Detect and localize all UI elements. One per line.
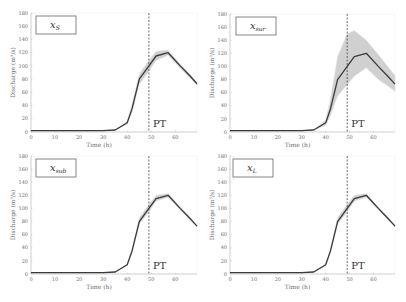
y-tick-label: 120	[18, 192, 28, 198]
x-tick-label: 10	[52, 134, 58, 140]
x-tick-label: 30	[299, 134, 305, 140]
x-tick-label: 20	[76, 134, 82, 140]
y-tick-label: 180	[217, 11, 227, 17]
x-tick-label: 40	[124, 134, 130, 140]
x-tick-label: 10	[251, 276, 257, 282]
y-tick-label: 0	[25, 271, 28, 277]
x-tick-label: 10	[251, 134, 257, 140]
y-tick-label: 140	[217, 37, 227, 43]
x-tick-label: 30	[100, 276, 106, 282]
y-tick-label: 20	[22, 258, 28, 264]
y-tick-label: 100	[217, 205, 227, 211]
y-tick-label: 140	[18, 179, 28, 185]
x-tick-label: 0	[29, 276, 32, 282]
y-tick-label: 40	[22, 244, 28, 250]
y-tick-label: 80	[22, 218, 28, 224]
y-tick-label: 100	[18, 63, 28, 69]
chart-panel-top-left: 0102030405060020406080100120140160180Tim…	[9, 10, 197, 148]
y-tick-label: 0	[224, 271, 227, 277]
x-tick-label: 10	[52, 276, 58, 282]
y-tick-label: 40	[221, 102, 227, 108]
y-tick-label: 60	[221, 89, 227, 95]
x-axis-label: Time (h)	[285, 283, 311, 290]
y-tick-label: 60	[22, 231, 28, 237]
y-axis-label: Discharge (m³/s)	[208, 48, 216, 99]
x-tick-label: 50	[346, 276, 352, 282]
y-tick-label: 160	[18, 23, 28, 29]
y-tick-label: 80	[22, 76, 28, 82]
y-tick-label: 100	[18, 205, 28, 211]
x-tick-label: 0	[228, 134, 231, 140]
x-tick-label: 0	[29, 134, 32, 140]
y-tick-label: 120	[217, 192, 227, 198]
x-tick-label: 60	[370, 276, 376, 282]
x-tick-label: 60	[172, 134, 178, 140]
x-axis-label: Time (h)	[86, 141, 112, 148]
y-tick-label: 140	[18, 36, 28, 42]
x-tick-label: 30	[299, 276, 305, 282]
y-tick-label: 40	[22, 102, 28, 108]
y-tick-label: 0	[25, 129, 28, 135]
y-tick-label: 60	[22, 89, 28, 95]
parameter-subscript: L	[252, 167, 257, 174]
pt-label: PT	[351, 118, 365, 129]
parameter-subscript: S	[56, 24, 60, 31]
x-tick-label: 20	[76, 276, 82, 282]
y-tick-label: 120	[18, 49, 28, 55]
x-tick-label: 40	[322, 276, 328, 282]
chart-grid: 0102030405060020406080100120140160180Tim…	[0, 0, 406, 302]
y-axis-label: Discharge (m³/s)	[208, 190, 216, 241]
y-tick-label: 60	[221, 231, 227, 237]
y-tick-label: 180	[217, 153, 227, 159]
x-tick-label: 50	[148, 134, 154, 140]
uncertainty-band	[230, 30, 395, 130]
figure: 0102030405060020406080100120140160180Tim…	[0, 0, 406, 302]
y-tick-label: 160	[18, 166, 28, 172]
pt-label: PT	[351, 260, 365, 271]
y-tick-label: 40	[221, 244, 227, 250]
y-tick-label: 180	[18, 153, 28, 159]
x-tick-label: 40	[124, 276, 130, 282]
x-tick-label: 40	[322, 134, 328, 140]
x-tick-label: 20	[275, 276, 281, 282]
pt-label: PT	[153, 118, 167, 129]
y-tick-label: 120	[217, 50, 227, 56]
y-tick-label: 160	[217, 24, 227, 30]
y-tick-label: 100	[217, 63, 227, 69]
pt-label: PT	[153, 260, 167, 271]
x-axis-label: Time (h)	[86, 283, 112, 290]
y-tick-label: 80	[221, 76, 227, 82]
y-axis-label: Discharge (m³/s)	[9, 47, 17, 98]
y-axis-label: Discharge (m³/s)	[9, 190, 17, 241]
parameter-subscript: sur	[256, 25, 267, 32]
y-tick-label: 180	[18, 10, 28, 16]
x-tick-label: 50	[346, 134, 352, 140]
uncertainty-band	[31, 193, 197, 272]
chart-panel-bottom-right: 0102030405060020406080100120140160180Tim…	[208, 153, 395, 290]
chart-panel-top-right: 0102030405060020406080100120140160180Tim…	[208, 11, 395, 148]
y-tick-label: 20	[221, 258, 227, 264]
discharge-line	[31, 195, 197, 272]
discharge-line	[31, 53, 197, 131]
uncertainty-band	[31, 50, 197, 131]
y-tick-label: 80	[221, 218, 227, 224]
x-tick-label: 60	[370, 134, 376, 140]
x-tick-label: 50	[148, 276, 154, 282]
parameter-subscript: sub	[56, 167, 67, 174]
discharge-line	[230, 195, 395, 272]
y-tick-label: 0	[224, 129, 227, 135]
uncertainty-band	[230, 193, 395, 272]
x-axis-label: Time (h)	[285, 141, 311, 148]
x-tick-label: 0	[228, 276, 231, 282]
y-tick-label: 20	[221, 116, 227, 122]
x-tick-label: 30	[100, 134, 106, 140]
y-tick-label: 160	[217, 166, 227, 172]
chart-panel-bottom-left: 0102030405060020406080100120140160180Tim…	[9, 153, 197, 290]
x-tick-label: 60	[172, 276, 178, 282]
y-tick-label: 140	[217, 179, 227, 185]
y-tick-label: 20	[22, 115, 28, 121]
x-tick-label: 20	[275, 134, 281, 140]
